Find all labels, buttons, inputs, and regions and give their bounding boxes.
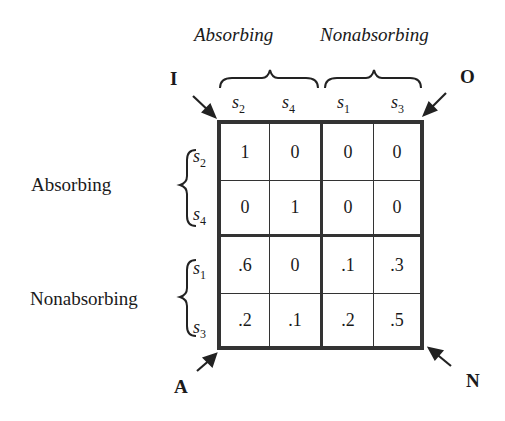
row-state-s2: s2 (193, 146, 206, 171)
transition-matrix: 1 0 0 0 0 1 0 0 .6 0 .1 .3 .2 .1 .2 .5 (217, 120, 424, 350)
matrix-cell: .1 (323, 237, 373, 293)
corner-label-n: N (466, 370, 480, 392)
matrix-cell: 0 (323, 181, 373, 234)
matrix-cell: .5 (374, 294, 420, 346)
matrix-cell: .2 (221, 294, 269, 346)
row-state-s4: s4 (193, 204, 206, 229)
corner-label-o: O (460, 66, 475, 88)
row-state-s1: s1 (193, 258, 206, 283)
matrix-cell: .1 (270, 294, 320, 346)
matrix-cell: 0 (270, 237, 320, 293)
matrix-cell: 1 (221, 124, 269, 180)
matrix-cell: .2 (323, 294, 373, 346)
matrix-cell: 0 (374, 124, 420, 180)
row-group-nonabsorbing: Nonabsorbing (30, 288, 138, 310)
matrix-cell: .3 (374, 237, 420, 293)
matrix-cell: 0 (323, 124, 373, 180)
corner-label-i: I (170, 68, 177, 90)
column-state-s3: s3 (391, 92, 404, 117)
column-state-s2: s2 (232, 92, 245, 117)
brace-top-absorbing (220, 70, 318, 88)
matrix-cell: 0 (374, 181, 420, 234)
column-state-s4: s4 (282, 92, 295, 117)
column-state-s1: s1 (337, 92, 350, 117)
matrix-cell: 0 (270, 124, 320, 180)
matrix-cell: 0 (221, 181, 269, 234)
matrix-cell: 1 (270, 181, 320, 234)
row-group-absorbing: Absorbing (31, 174, 111, 196)
brace-top-nonabsorbing (325, 70, 421, 88)
matrix-cell: .6 (221, 237, 269, 293)
corner-label-a: A (174, 376, 188, 398)
row-state-s3: s3 (193, 317, 206, 342)
